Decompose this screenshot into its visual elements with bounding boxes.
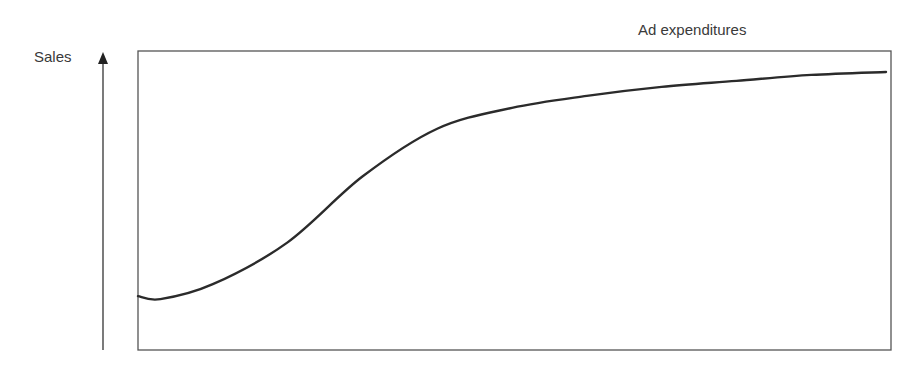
plot-frame xyxy=(138,51,891,350)
chart-canvas xyxy=(0,0,923,366)
arrowhead-icon xyxy=(98,52,108,64)
sales-response-curve xyxy=(138,72,886,300)
y-axis-arrow xyxy=(98,52,108,350)
